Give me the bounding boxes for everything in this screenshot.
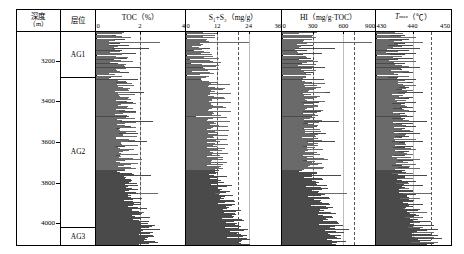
depth-tick-label: 3400 xyxy=(41,97,55,105)
axis-tickmark xyxy=(413,31,414,34)
track-tmax-title: Tmax（℃） xyxy=(376,11,451,22)
tick-label: 36 xyxy=(274,22,281,29)
track-s1s2: S₁+S₂（mg/g） 0122436 xyxy=(186,10,282,245)
strata-cell-ag1: AG1 xyxy=(61,32,95,77)
depth-tick xyxy=(56,61,60,62)
log-spike xyxy=(96,169,125,170)
strata-column: 层位 AG1AG2AG3 xyxy=(61,10,96,245)
depth-axis-body: 32003400360038004000 xyxy=(17,32,60,245)
track-tmax-ticklabels: 430440450 xyxy=(376,22,451,31)
strata-boundary xyxy=(61,77,95,78)
track-hi-ticklabels: 0300600900 xyxy=(282,22,375,31)
track-hi-title: HI（mg/g·TOC） xyxy=(282,11,375,22)
track-gridline xyxy=(249,32,250,245)
log-spike xyxy=(376,80,394,81)
log-spike xyxy=(282,80,297,81)
log-spike xyxy=(96,80,109,81)
depth-tick-label: 3200 xyxy=(41,57,55,65)
axis-tickmark xyxy=(249,31,250,34)
strata-boundary xyxy=(61,227,95,228)
track-toc-plot xyxy=(96,32,185,245)
tick-label: 0 xyxy=(187,22,190,29)
axis-tickmark xyxy=(313,31,314,34)
strata-header: 层位 xyxy=(61,10,95,32)
depth-header: 深度 （m） xyxy=(17,10,60,32)
reference-line xyxy=(431,32,432,245)
track-toc-title: TOC（%） xyxy=(96,11,185,22)
strata-cell-ag2: AG2 xyxy=(61,77,95,227)
tick-label: 12 xyxy=(214,22,221,29)
axis-tickmark xyxy=(217,31,218,34)
tick-label: 600 xyxy=(338,22,348,29)
track-tmax-plot xyxy=(376,32,451,245)
tick-label: 24 xyxy=(245,22,252,29)
track-s1s2-ticklabels: 0122436 xyxy=(186,22,281,31)
well-log-figure-root: 深度 （m） 32003400360038004000 层位 AG1AG2AG3… xyxy=(0,0,464,254)
tick-label: 300 xyxy=(308,22,318,29)
log-spike xyxy=(186,80,202,81)
depth-column: 深度 （m） 32003400360038004000 xyxy=(17,10,61,245)
tick-label: 0 xyxy=(97,22,100,29)
depth-tick xyxy=(56,101,60,102)
log-spike xyxy=(376,169,395,170)
strata-body: AG1AG2AG3 xyxy=(61,32,95,245)
track-tmax-subscript: max xyxy=(399,14,408,19)
tick-label: 450 xyxy=(440,22,450,29)
depth-tick-label: 3800 xyxy=(41,179,55,187)
tick-label: 4 xyxy=(182,22,185,29)
log-figure-frame: 深度 （m） 32003400360038004000 层位 AG1AG2AG3… xyxy=(16,9,452,246)
reference-line xyxy=(238,32,239,245)
strata-cell-ag3: AG3 xyxy=(61,227,95,245)
tick-label: 440 xyxy=(408,22,418,29)
track-tmax: Tmax（℃） 430440450 xyxy=(376,10,451,245)
track-hi: HI（mg/g·TOC） 0300600900 xyxy=(282,10,376,245)
axis-tickmark xyxy=(140,31,141,34)
track-gridline xyxy=(343,32,344,245)
depth-tick-label: 4000 xyxy=(41,219,55,227)
depth-header-line2: （m） xyxy=(29,21,48,28)
track-s1s2-plot xyxy=(186,32,281,245)
track-s1s2-title: S₁+S₂（mg/g） xyxy=(186,11,281,22)
tick-label: 0 xyxy=(283,22,286,29)
log-spike xyxy=(186,169,215,170)
track-tmax-unit: （℃） xyxy=(408,11,432,22)
axis-tickmark xyxy=(343,31,344,34)
depth-tick xyxy=(56,223,60,224)
reference-line xyxy=(354,32,355,245)
strata-header-label: 层位 xyxy=(71,17,85,25)
track-toc: TOC（%） 024 xyxy=(96,10,186,245)
depth-tick-label: 3600 xyxy=(41,138,55,146)
track-toc-ticklabels: 024 xyxy=(96,22,185,31)
tick-label: 430 xyxy=(377,22,387,29)
tick-label: 900 xyxy=(365,22,375,29)
track-hi-plot xyxy=(282,32,375,245)
depth-tick xyxy=(56,142,60,143)
log-spike xyxy=(282,169,304,170)
depth-tick xyxy=(56,183,60,184)
tick-label: 2 xyxy=(138,22,141,29)
